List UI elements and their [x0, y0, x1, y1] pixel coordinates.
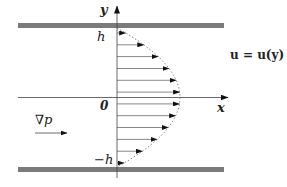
- top-plate: [18, 23, 224, 28]
- x-axis-label: x: [217, 100, 225, 115]
- y-axis-label: y: [100, 2, 108, 17]
- origin-label: 0: [100, 99, 108, 113]
- bottom-plate: [18, 167, 224, 172]
- top-wall-label: h: [97, 29, 105, 44]
- bottom-wall-label: −h: [94, 152, 113, 167]
- velocity-arrows: [117, 33, 180, 163]
- velocity-equation: u = u(y) x̂: [230, 48, 287, 62]
- pressure-gradient-label: ∇p: [35, 112, 52, 127]
- flow-diagram: [0, 0, 287, 187]
